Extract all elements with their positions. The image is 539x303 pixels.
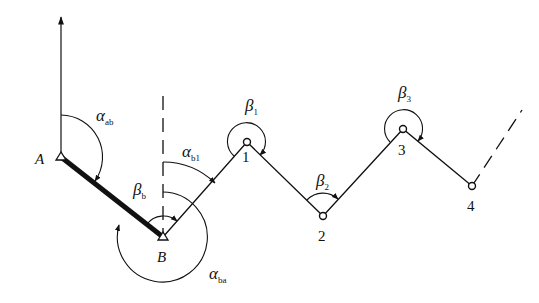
label-beta-2: β2	[315, 171, 329, 192]
point-3-marker	[400, 126, 407, 133]
point-1-marker	[244, 139, 251, 146]
label-beta-1: β1	[244, 96, 258, 117]
label-alpha-ab: αab	[96, 106, 114, 127]
label-4: 4	[467, 198, 475, 214]
label-beta-3: β3	[397, 83, 411, 104]
point-4-marker	[469, 183, 476, 190]
traverse-continuation-dashed	[472, 110, 522, 186]
known-side-ab	[61, 157, 163, 237]
beta-b-arc	[147, 216, 177, 224]
label-3: 3	[398, 142, 406, 158]
label-beta-b: βb	[132, 180, 146, 201]
beta-2-arc	[307, 193, 338, 200]
point-a-marker	[56, 152, 66, 160]
label-b: B	[157, 249, 166, 265]
label-1: 1	[242, 149, 250, 165]
label-alpha-ba: αba	[209, 264, 226, 285]
label-alpha-b1: αb1	[182, 142, 200, 163]
label-a: A	[34, 151, 45, 167]
alpha-b1-arc	[163, 162, 215, 183]
label-2: 2	[318, 228, 326, 244]
point-2-marker	[320, 213, 327, 220]
traverse-diagram: A B 1 2 3 4 αab αb1 αba βb β1 β2 β3	[0, 0, 539, 303]
